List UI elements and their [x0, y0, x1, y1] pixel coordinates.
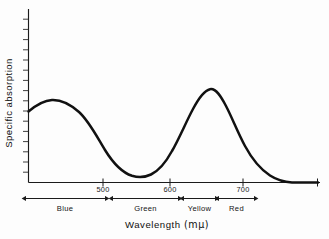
- band-yellow: Yellow: [184, 199, 215, 214]
- x-tick-label-600: 600: [164, 185, 177, 194]
- chart-canvas: 500 600 700 Blue Green Yellow: [0, 0, 329, 239]
- x-axis-tick-labels: 500 600 700: [97, 185, 250, 194]
- x-axis: 500 600 700: [29, 179, 321, 195]
- absorption-curve: [29, 89, 319, 182]
- band-label-green: Green: [134, 204, 157, 213]
- absorption-curve-group: [29, 89, 319, 182]
- x-axis-title-main: Wavelength: [125, 219, 181, 230]
- band-red: Red: [219, 199, 254, 214]
- x-tick-label-500: 500: [97, 185, 110, 194]
- band-blue: Blue: [26, 199, 105, 214]
- absorption-spectrum-figure: 500 600 700 Blue Green Yellow: [0, 0, 329, 239]
- band-green: Green: [113, 199, 178, 214]
- band-label-blue: Blue: [57, 204, 73, 213]
- x-tick-label-700: 700: [237, 185, 250, 194]
- band-label-yellow: Yellow: [188, 204, 212, 213]
- color-band-annotations: Blue Green Yellow Red: [26, 199, 254, 214]
- y-axis-ticks: [23, 19, 29, 172]
- y-axis-title: Specific absorption: [3, 58, 14, 148]
- band-label-red: Red: [229, 204, 244, 213]
- x-axis-title: Wavelength (mμ): [125, 219, 209, 230]
- y-axis: [23, 9, 29, 183]
- x-axis-title-units: (mμ): [184, 219, 209, 230]
